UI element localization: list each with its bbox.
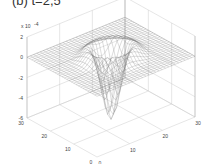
floor-grid-line — [27, 118, 97, 157]
z-tick-label: 2 — [20, 34, 23, 40]
x-tick-label: 20 — [163, 133, 169, 139]
mesh-line — [69, 41, 167, 82]
y-tick-label: 20 — [42, 133, 48, 139]
wall-grid-line — [27, 0, 125, 37]
wall-grid-line — [125, 0, 195, 36]
mesh-line — [81, 47, 179, 87]
mesh-line — [83, 48, 181, 88]
mesh-line — [36, 22, 134, 62]
floor-grid-line — [60, 105, 130, 144]
x-tick-label: 30 — [195, 120, 201, 126]
mesh-line — [41, 25, 139, 65]
z-tick-label: 0 — [20, 54, 23, 60]
surface-plot: 20-2-4-6x 10-401020300102030 — [0, 0, 217, 164]
mesh-line — [73, 39, 143, 115]
x-tick-label: 10 — [130, 147, 136, 153]
surface-mesh — [27, 17, 195, 119]
y-tick-label: 0 — [90, 159, 93, 164]
z-multiplier-label: x 10 — [21, 23, 31, 29]
mesh-line — [105, 25, 175, 64]
wall-grid-line — [125, 58, 195, 97]
y-tick-label: 30 — [18, 120, 24, 126]
floor-grid-line — [97, 117, 195, 157]
z-tick-label: -2 — [19, 75, 24, 81]
mesh-line — [32, 20, 130, 60]
floor-grid-line — [50, 91, 148, 131]
z-multiplier-exponent: -4 — [34, 21, 39, 27]
x-tick-label: 0 — [99, 160, 102, 164]
mesh-line — [71, 42, 169, 82]
mesh-line — [34, 21, 132, 61]
mesh-line — [96, 29, 166, 68]
wall-grid-line — [125, 78, 195, 117]
mesh-line — [125, 17, 195, 56]
axes-box — [27, 0, 195, 157]
tick-labels: 20-2-4-6x 10-401020300102030 — [18, 21, 201, 164]
y-tick-label: 10 — [65, 146, 71, 152]
floor-grid-line — [74, 104, 172, 144]
z-tick-label: -4 — [19, 95, 24, 101]
mesh-line — [122, 19, 192, 58]
mesh-line — [50, 30, 148, 70]
